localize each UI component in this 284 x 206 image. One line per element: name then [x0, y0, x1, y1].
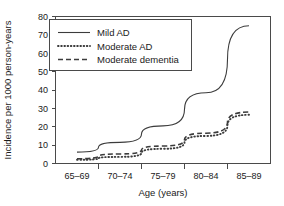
legend-label-moderate-dementia: Moderate dementia	[97, 54, 180, 65]
x-tick-label: 75–79	[150, 171, 175, 181]
x-tick-label: 80–84	[193, 171, 218, 181]
legend-label-mild-ad: Mild AD	[97, 27, 130, 38]
line-chart: 0 10 20 30 40 50 60 70 80 65–69	[0, 0, 284, 206]
y-tick-label: 70	[38, 30, 48, 40]
y-tick-label: 80	[38, 12, 48, 22]
x-tick-label: 65–69	[64, 171, 89, 181]
series-line-moderate-ad	[77, 115, 249, 160]
y-tick-label: 30	[38, 104, 48, 114]
legend-label-moderate-ad: Moderate AD	[97, 41, 153, 52]
x-tick-label: 85–89	[236, 171, 261, 181]
y-tick-label: 40	[38, 85, 48, 95]
y-tick-label: 50	[38, 67, 48, 77]
series-line-moderate-dementia	[77, 112, 249, 159]
x-axis-title: Age (years)	[138, 187, 187, 198]
y-tick-label: 20	[38, 122, 48, 132]
y-axis-title: Incidence per 1000 person-years	[2, 20, 13, 159]
y-tick-label: 60	[38, 49, 48, 59]
y-tick-label: 0	[43, 159, 48, 169]
x-tick-group: 65–69 70–74 75–79 80–84 85–89	[64, 164, 261, 182]
chart-figure: 0 10 20 30 40 50 60 70 80 65–69	[0, 0, 284, 206]
x-tick-label: 70–74	[107, 171, 132, 181]
legend: Mild AD Moderate AD Moderate dementia	[50, 20, 192, 71]
y-tick-label: 10	[38, 140, 48, 150]
